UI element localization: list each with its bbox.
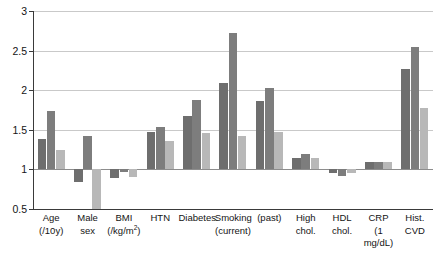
category-label-line2: (/10y) xyxy=(33,225,69,238)
x-axis-category-label: (past) xyxy=(251,212,287,225)
bar[interactable] xyxy=(229,33,238,169)
x-axis-category-label: HDLchol. xyxy=(324,212,360,237)
y-axis-tick-label: 3 xyxy=(21,6,27,16)
category-label-line2: (1 mg/dL) xyxy=(360,225,396,250)
category-label-line1: Male xyxy=(77,212,98,223)
bar-chart: OR (Global)OR (HIC)OR (LMIC) 0.511.522.5… xyxy=(0,0,443,257)
bar[interactable] xyxy=(238,136,247,169)
bar[interactable] xyxy=(129,169,138,177)
category-label-line1: BMI xyxy=(115,212,132,223)
bar[interactable] xyxy=(219,83,228,169)
bar[interactable] xyxy=(120,169,129,171)
bar[interactable] xyxy=(92,169,101,209)
x-axis-category-label: Smoking(current) xyxy=(215,212,251,237)
bar[interactable] xyxy=(301,154,310,169)
plot-area: 0.511.522.53 xyxy=(33,11,433,209)
bar[interactable] xyxy=(183,116,192,169)
category-label-line2: (/kg/m2) xyxy=(106,225,142,238)
x-axis-category-label: HTN xyxy=(142,212,178,225)
bar-group xyxy=(360,11,396,209)
bar[interactable] xyxy=(265,88,274,170)
bar[interactable] xyxy=(383,162,392,170)
category-label-line1: HDL xyxy=(333,212,352,223)
bar[interactable] xyxy=(56,150,65,169)
x-axis-line xyxy=(33,209,433,210)
y-axis-tick-label: 1.5 xyxy=(12,125,27,135)
category-label-paren: ) xyxy=(137,225,140,236)
x-axis-category-label: Age(/10y) xyxy=(33,212,69,237)
bar[interactable] xyxy=(347,169,356,172)
bar-group xyxy=(251,11,287,209)
x-axis-category-label: CRP(1 mg/dL) xyxy=(360,212,396,250)
x-axis-category-label: Highchol. xyxy=(288,212,324,237)
bar[interactable] xyxy=(365,162,374,170)
bar-group xyxy=(106,11,142,209)
bar-group xyxy=(33,11,69,209)
bar[interactable] xyxy=(411,47,420,170)
bar[interactable] xyxy=(338,169,347,175)
category-label-line1: Smoking xyxy=(215,212,252,223)
category-label-line2: CVD xyxy=(397,225,433,238)
bar[interactable] xyxy=(38,139,47,169)
bar[interactable] xyxy=(165,141,174,170)
y-axis-line xyxy=(33,11,34,210)
bar[interactable] xyxy=(47,111,56,170)
category-label-line1: Age xyxy=(43,212,60,223)
bar-group xyxy=(397,11,433,209)
bar[interactable] xyxy=(74,169,83,182)
category-label-line1: CRP xyxy=(368,212,388,223)
bar-group xyxy=(215,11,251,209)
category-label-line1: Diabetes xyxy=(178,212,216,223)
bar-group xyxy=(142,11,178,209)
y-axis-tick-label: 2.5 xyxy=(12,46,27,56)
category-label-line1: High xyxy=(296,212,316,223)
bar[interactable] xyxy=(311,158,320,169)
category-label-line2: (past) xyxy=(251,212,287,225)
bar[interactable] xyxy=(401,69,410,170)
bar-group xyxy=(324,11,360,209)
bar[interactable] xyxy=(274,132,283,169)
category-label-line1: Hist. xyxy=(405,212,424,223)
bar[interactable] xyxy=(256,101,265,170)
y-axis-tick-label: 0.5 xyxy=(12,204,27,214)
bar[interactable] xyxy=(147,132,156,169)
y-axis-tick-label: 1 xyxy=(21,164,27,174)
bar[interactable] xyxy=(374,162,383,170)
category-label-line1: HTN xyxy=(150,212,170,223)
bar[interactable] xyxy=(110,169,119,178)
category-label-line2: chol. xyxy=(324,225,360,238)
bar[interactable] xyxy=(329,169,338,173)
category-label-line2: chol. xyxy=(288,225,324,238)
bar-group xyxy=(69,11,105,209)
bar[interactable] xyxy=(192,100,201,170)
bar[interactable] xyxy=(292,158,301,170)
bar[interactable] xyxy=(83,136,92,169)
bar-group xyxy=(178,11,214,209)
category-label-line2: (current) xyxy=(215,225,251,238)
bar[interactable] xyxy=(156,127,165,170)
y-axis-tick-label: 2 xyxy=(21,85,27,95)
bar[interactable] xyxy=(420,108,429,169)
bar[interactable] xyxy=(202,133,211,169)
bar-series-container xyxy=(33,11,433,209)
category-label-line2: sex xyxy=(69,225,105,238)
category-label-line2-text: (/kg/m xyxy=(107,225,133,236)
bar-group xyxy=(288,11,324,209)
x-axis-category-label: Malesex xyxy=(69,212,105,237)
x-axis-category-label: BMI(/kg/m2) xyxy=(106,212,142,237)
x-axis-category-label: Diabetes xyxy=(178,212,214,225)
x-axis-tick-labels: Age(/10y)MalesexBMI(/kg/m2)HTNDiabetesSm… xyxy=(33,212,433,254)
x-axis-category-label: Hist.CVD xyxy=(397,212,433,237)
